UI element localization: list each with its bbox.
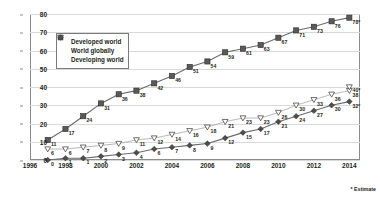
x-tick-label: 2012 xyxy=(307,162,321,169)
data-point-label: 11 xyxy=(140,141,145,147)
legend-item-developed-world: Developed world xyxy=(61,38,123,47)
data-point-label: 17 xyxy=(264,130,270,136)
x-tick-label: 2014 xyxy=(342,162,356,169)
x-tick-label: 2010 xyxy=(271,162,285,169)
data-point-label: 61 xyxy=(246,50,252,56)
data-point-label: 54 xyxy=(211,63,217,69)
legend-label-world-globally: World globally xyxy=(71,47,114,54)
data-point-label: 23 xyxy=(246,119,252,125)
data-point-label: 38 xyxy=(140,92,146,98)
x-tick-label: 2002 xyxy=(129,162,143,169)
data-point-label: 26 xyxy=(282,114,288,120)
data-point-label: 78* xyxy=(353,19,361,25)
data-point-label: 18 xyxy=(211,128,217,134)
data-point-label: 3 xyxy=(122,156,125,162)
data-point-label: 71 xyxy=(299,32,305,38)
internet-usage-line-chart: 01020304050607080 1996199820002002200420… xyxy=(0,0,380,204)
data-point-label: 76 xyxy=(335,23,341,29)
data-point-label: 17 xyxy=(69,130,75,136)
data-point-label: 33 xyxy=(317,101,323,107)
data-point-label: 73 xyxy=(317,28,323,34)
chart-legend: Developed world World globally Developin… xyxy=(56,33,129,69)
data-point-label: 9 xyxy=(122,145,125,151)
y-tick-label: 20 xyxy=(23,120,47,127)
y-tick-label: 60 xyxy=(23,47,47,54)
data-point-label: 12 xyxy=(157,139,163,145)
y-tick-label: 30 xyxy=(23,102,47,109)
y-tick-mark xyxy=(20,51,23,52)
data-point-label: 30 xyxy=(335,106,341,112)
data-point-label: 24 xyxy=(299,117,305,123)
y-tick-mark xyxy=(20,124,23,125)
data-point-label: 0 xyxy=(51,161,54,167)
y-tick-label: 50 xyxy=(23,65,47,72)
data-point-label: 51 xyxy=(193,68,199,74)
legend-label-developing-world: Developing world xyxy=(71,56,123,63)
data-point-label: 1 xyxy=(86,159,89,165)
data-point-label: 6 xyxy=(51,150,54,156)
data-point-label: 32* xyxy=(353,103,361,109)
data-point-label: 63 xyxy=(264,46,270,52)
data-point-label: 7 xyxy=(86,148,89,154)
data-point-label: 36 xyxy=(122,96,128,102)
y-tick-label: 70 xyxy=(23,29,47,36)
x-tick-label: 2004 xyxy=(165,162,179,169)
gridline xyxy=(30,160,360,161)
data-point-label: 36 xyxy=(335,96,341,102)
data-point-label: 30 xyxy=(299,106,305,112)
y-tick-mark xyxy=(20,69,23,70)
y-tick-mark xyxy=(20,160,23,161)
data-point-label: 59 xyxy=(228,54,234,60)
y-tick-mark xyxy=(20,14,23,15)
y-tick-mark xyxy=(20,32,23,33)
y-tick-label: 10 xyxy=(23,138,47,145)
data-point-label: 9 xyxy=(211,145,214,151)
data-point-label: 6 xyxy=(69,150,72,156)
data-point-label: 4 xyxy=(140,154,143,160)
data-point-label: 21 xyxy=(282,123,288,129)
data-point-label: 21 xyxy=(228,123,234,129)
data-point-label: 8 xyxy=(193,147,196,153)
data-point-label: 2 xyxy=(104,158,107,164)
data-point-label: 16 xyxy=(193,132,199,138)
x-tick-label: 1996 xyxy=(23,162,37,169)
data-point-label: 42 xyxy=(157,85,163,91)
data-point-label: 11 xyxy=(51,141,56,147)
legend-label-developed-world: Developed world xyxy=(71,38,121,45)
data-point-label: 12 xyxy=(228,139,234,145)
data-point-label: 15 xyxy=(246,134,252,140)
data-point-label: 6 xyxy=(157,150,160,156)
legend-item-world-globally: World globally xyxy=(61,47,123,56)
data-point-label: 1 xyxy=(69,159,72,165)
y-tick-mark xyxy=(20,105,23,106)
x-tick-label: 2008 xyxy=(236,162,250,169)
data-point-label: 14 xyxy=(175,136,181,142)
legend-item-developing-world: Developing world xyxy=(61,56,123,65)
data-point-label: 24 xyxy=(86,117,92,123)
data-point-label: 23 xyxy=(264,119,270,125)
y-tick-label: 40 xyxy=(23,84,47,91)
data-point-label: 27 xyxy=(317,112,323,118)
y-tick-mark xyxy=(20,142,23,143)
x-tick-label: 2006 xyxy=(200,162,214,169)
data-point-label: 7 xyxy=(175,148,178,154)
y-tick-mark xyxy=(20,87,23,88)
data-point-label: 31 xyxy=(104,105,110,111)
data-point-label: 67 xyxy=(282,39,288,45)
data-point-label: 8 xyxy=(104,147,107,153)
y-tick-label: 80 xyxy=(23,11,47,18)
data-point-label: 40* xyxy=(353,87,361,93)
estimate-footnote: * Estimate xyxy=(350,186,376,192)
data-point-label: 46 xyxy=(175,77,181,83)
